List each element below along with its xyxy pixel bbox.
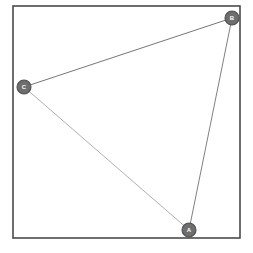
graph-node-c[interactable]: C — [17, 80, 31, 94]
graph-node-b[interactable]: B — [225, 11, 239, 25]
graph-node-a[interactable]: A — [182, 223, 196, 237]
diagram-canvas: A B C — [0, 0, 253, 253]
node-circle-b[interactable] — [225, 11, 239, 25]
plot-border — [13, 6, 240, 238]
node-circle-c[interactable] — [17, 80, 31, 94]
triangle-graph-diagram: A B C — [0, 0, 253, 253]
node-circle-a[interactable] — [182, 223, 196, 237]
